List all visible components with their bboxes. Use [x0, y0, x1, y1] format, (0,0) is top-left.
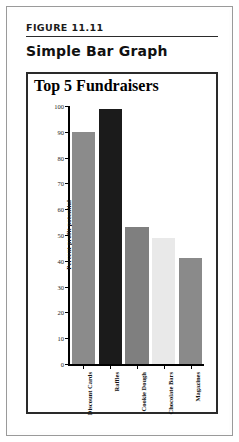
x-tick-label: Raffles: [113, 372, 120, 392]
bar: [99, 109, 122, 364]
x-axis-line: [68, 364, 204, 366]
x-tick-mark: [164, 366, 165, 369]
x-tick-label: Chocolate Bars: [167, 372, 174, 414]
y-tick-mark: [65, 312, 68, 313]
y-tick-label: 10: [58, 335, 65, 342]
figure-frame-inner: FIGURE 11.11 Simple Bar Graph Top 5 Fund…: [10, 10, 229, 432]
bar: [152, 238, 175, 364]
y-tick-mark: [65, 261, 68, 262]
y-tick-label: 40: [58, 257, 65, 264]
figure-label: FIGURE 11.11: [26, 22, 104, 33]
y-tick-mark: [65, 338, 68, 339]
y-tick-mark: [65, 235, 68, 236]
y-tick-label: 50: [58, 232, 65, 239]
x-tick-mark: [83, 366, 84, 369]
x-tick-mark: [110, 366, 111, 369]
y-tick-label: 80: [58, 154, 65, 161]
plot-area: Percent profit potential 100908070605040…: [68, 106, 202, 364]
x-tick-label: Cookie Dough: [140, 372, 147, 412]
bar: [72, 132, 95, 364]
bar: [179, 258, 202, 364]
figure-caption: Simple Bar Graph: [26, 43, 168, 59]
bar: [125, 227, 148, 364]
x-tick-label: Discount Cards: [86, 372, 93, 415]
y-tick-label: 70: [58, 180, 65, 187]
figure-frame: FIGURE 11.11 Simple Bar Graph Top 5 Fund…: [6, 6, 233, 436]
y-tick-label: 30: [58, 283, 65, 290]
chart-title: Top 5 Fundraisers: [34, 77, 159, 95]
figure-header-rule: [26, 36, 218, 37]
x-tick-mark: [191, 366, 192, 369]
y-tick-label: 90: [58, 128, 65, 135]
y-tick-mark: [65, 287, 68, 288]
chart-container: Top 5 Fundraisers Percent profit potenti…: [26, 72, 218, 414]
y-tick-mark: [65, 209, 68, 210]
y-tick-label: 20: [58, 309, 65, 316]
y-tick-label: 100: [54, 103, 64, 110]
x-tick-label: Magazines: [194, 372, 201, 402]
bar-series: [70, 106, 204, 364]
y-tick-mark: [65, 158, 68, 159]
y-tick-mark: [65, 183, 68, 184]
y-tick-mark: [65, 106, 68, 107]
y-tick-label: 0: [61, 361, 64, 368]
y-tick-mark: [65, 132, 68, 133]
y-tick-mark: [65, 364, 68, 365]
y-tick-label: 60: [58, 206, 65, 213]
x-tick-mark: [137, 366, 138, 369]
